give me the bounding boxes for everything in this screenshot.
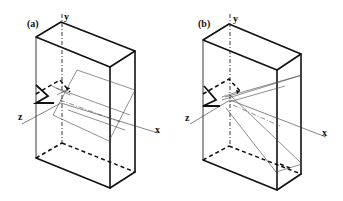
panel-a-label: (a)	[27, 18, 39, 30]
y-axis-label-b: y	[233, 13, 238, 24]
panel-b-label: (b)	[198, 18, 210, 30]
panel-b: (b) y z x	[185, 13, 327, 190]
x-axis-label-a: x	[155, 124, 160, 135]
y-axis-label-a: y	[64, 11, 69, 22]
z-axis-a	[22, 103, 61, 124]
z-axis-label-a: z	[18, 111, 23, 122]
panel-a: (a) y z x	[18, 11, 160, 188]
box-b	[203, 24, 301, 190]
tilted-plane-a	[53, 70, 135, 141]
x-axis-label-b: x	[322, 127, 327, 138]
diagram-figure: (a) y z x	[0, 0, 343, 201]
box-a	[36, 22, 135, 188]
z-axis-label-b: z	[185, 112, 190, 123]
